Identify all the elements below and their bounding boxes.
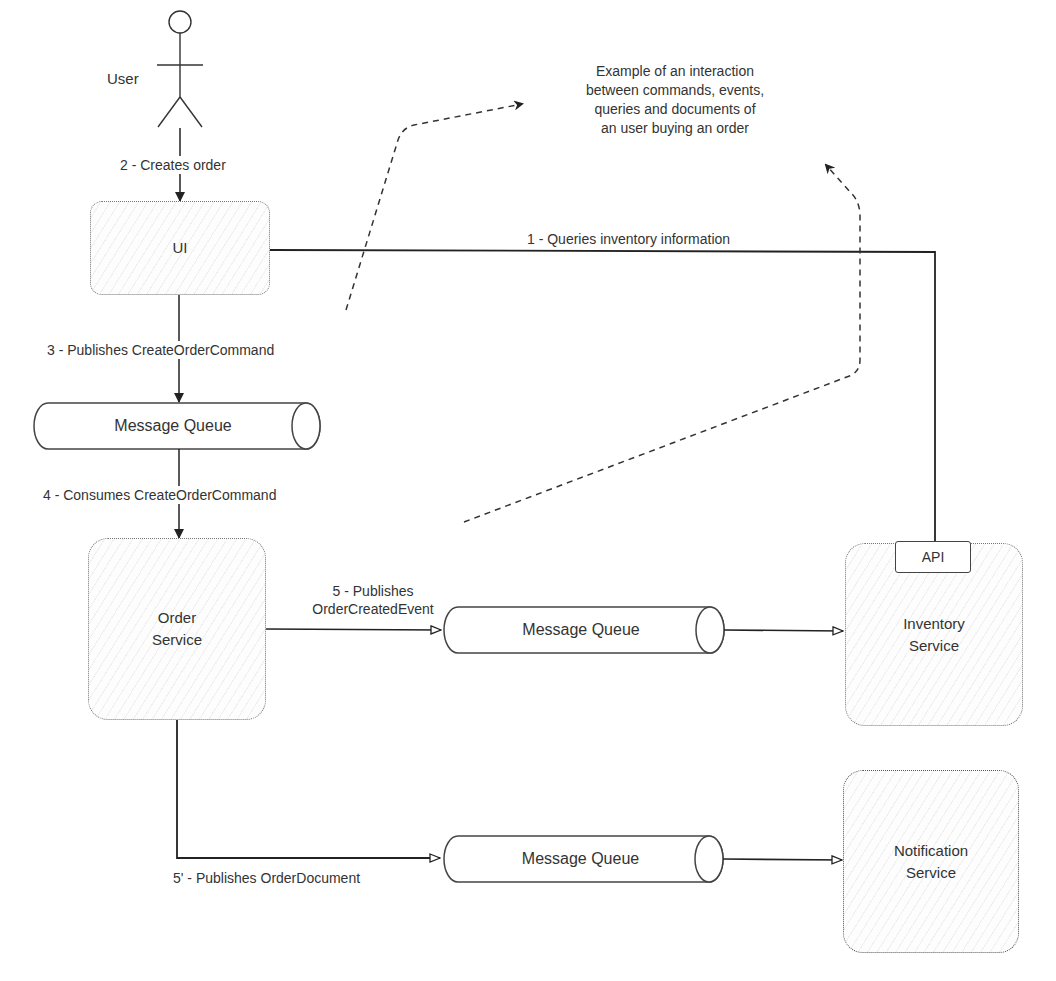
- inventory-api-port[interactable]: API: [895, 541, 971, 573]
- note-pointer-right: [464, 165, 860, 522]
- edge-label-step5-prime: 5' - Publishes OrderDocument: [173, 869, 360, 887]
- order-service-label-2: Service: [152, 629, 202, 651]
- edge-publishes-order-document: [177, 718, 440, 858]
- node-message-queue-3[interactable]: Message Queue: [458, 836, 703, 882]
- notification-service-label-1: Notification: [894, 840, 968, 862]
- node-message-queue-1[interactable]: Message Queue: [48, 403, 298, 449]
- annotation-note: Example of an interaction between comman…: [565, 62, 785, 138]
- inventory-service-label-2: Service: [903, 635, 965, 657]
- user-actor-icon: [157, 11, 203, 127]
- edge-queue2-to-inventory: [724, 630, 843, 631]
- note-line-1: Example of an interaction: [565, 62, 785, 81]
- note-pointer-left: [346, 104, 522, 310]
- note-line-2: between commands, events,: [565, 81, 785, 100]
- edge-label-step2: 2 - Creates order: [118, 156, 228, 174]
- edge-publishes-order-created-event: [266, 629, 441, 630]
- inventory-service-label-1: Inventory: [903, 613, 965, 635]
- edge-queue3-to-notification: [723, 859, 842, 860]
- edge-queries-inventory: [270, 250, 935, 565]
- queue-3-label: Message Queue: [522, 848, 639, 870]
- edge-label-step5-line1: 5 - Publishes: [305, 582, 441, 600]
- order-service-label-1: Order: [152, 607, 202, 629]
- edge-label-step5: 5 - Publishes OrderCreatedEvent: [305, 582, 441, 618]
- edge-label-step5-line2: OrderCreatedEvent: [305, 600, 441, 618]
- queue-2-label: Message Queue: [522, 619, 639, 641]
- edge-label-step4: 4 - Consumes CreateOrderCommand: [41, 486, 278, 504]
- node-message-queue-2[interactable]: Message Queue: [458, 607, 704, 653]
- edge-label-step3: 3 - Publishes CreateOrderCommand: [45, 341, 276, 359]
- node-order-service[interactable]: Order Service: [88, 538, 266, 720]
- queue-1-label: Message Queue: [114, 415, 231, 437]
- note-line-4: an user buying an order: [565, 119, 785, 138]
- edge-label-step1: 1 - Queries inventory information: [527, 230, 730, 248]
- node-notification-service[interactable]: Notification Service: [843, 770, 1019, 953]
- node-ui[interactable]: UI: [90, 201, 270, 295]
- notification-service-label-2: Service: [894, 862, 968, 884]
- actor-label: User: [107, 70, 139, 88]
- note-line-3: queries and documents of: [565, 100, 785, 119]
- node-ui-label: UI: [173, 237, 188, 259]
- api-label: API: [922, 549, 945, 565]
